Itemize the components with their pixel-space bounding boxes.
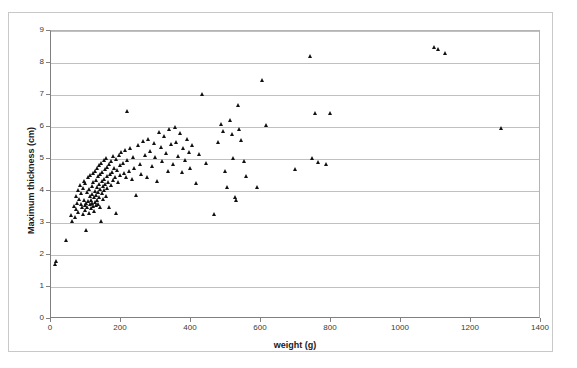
scatter-point xyxy=(108,172,112,176)
scatter-point xyxy=(94,203,98,207)
scatter-point xyxy=(95,198,99,202)
scatter-point xyxy=(121,161,125,165)
scatter-point xyxy=(81,186,85,190)
scatter-point xyxy=(432,45,436,49)
scatter-point xyxy=(197,152,201,156)
scatter-point xyxy=(87,211,91,215)
y-tick-label: 0 xyxy=(4,314,44,322)
scatter-point xyxy=(239,138,243,142)
scatter-point xyxy=(228,118,232,122)
x-tick-label: 1200 xyxy=(450,324,490,332)
scatter-point xyxy=(97,182,101,186)
scatter-point xyxy=(117,153,121,157)
scatter-point xyxy=(145,175,149,179)
x-tick-label: 200 xyxy=(100,324,140,332)
scatter-point xyxy=(86,175,90,179)
scatter-point xyxy=(111,178,115,182)
scatter-point xyxy=(105,174,109,178)
scatter-point xyxy=(74,207,78,211)
scatter-point xyxy=(118,163,122,167)
y-tick-label: 5 xyxy=(4,154,44,162)
scatter-point xyxy=(162,134,166,138)
scatter-point xyxy=(80,205,84,209)
y-tick-label: 4 xyxy=(4,186,44,194)
x-tick-mark xyxy=(540,318,541,322)
y-tick-label: 8 xyxy=(4,58,44,66)
scatter-point xyxy=(112,166,116,170)
scatter-point xyxy=(69,213,73,217)
x-tick-label: 800 xyxy=(310,324,350,332)
x-tick-mark xyxy=(120,318,121,322)
x-tick-label: 0 xyxy=(30,324,70,332)
scatter-point xyxy=(141,139,145,143)
x-tick-mark xyxy=(260,318,261,322)
scatter-point xyxy=(84,201,88,205)
scatter-point xyxy=(123,148,127,152)
x-tick-label: 600 xyxy=(240,324,280,332)
chart-figure: 01234567890200400600800100012001400 Maxi… xyxy=(0,0,577,368)
scatter-point xyxy=(93,200,97,204)
scatter-point xyxy=(113,175,117,179)
scatter-point xyxy=(204,161,208,165)
x-tick-label: 400 xyxy=(170,324,210,332)
scatter-point xyxy=(188,166,192,170)
scatter-point xyxy=(86,199,90,203)
scatter-point xyxy=(166,169,170,173)
scatter-point xyxy=(82,179,86,183)
scatter-point xyxy=(443,51,447,55)
scatter-point xyxy=(92,209,96,213)
scatter-point xyxy=(78,183,82,187)
scatter-point xyxy=(125,109,129,113)
scatter-point xyxy=(105,186,109,190)
scatter-point xyxy=(313,111,317,115)
scatter-point xyxy=(89,198,93,202)
scatter-point xyxy=(105,165,109,169)
scatter-point xyxy=(255,185,259,189)
scatter-point xyxy=(190,143,194,147)
gridline-y xyxy=(51,31,539,32)
scatter-point xyxy=(180,170,184,174)
scatter-point xyxy=(171,162,175,166)
scatter-point xyxy=(136,143,140,147)
scatter-point xyxy=(90,201,94,205)
scatter-point xyxy=(110,170,114,174)
scatter-point xyxy=(98,172,102,176)
y-tick-label: 1 xyxy=(4,282,44,290)
scatter-point xyxy=(106,180,110,184)
scatter-point xyxy=(88,202,92,206)
scatter-point xyxy=(95,185,99,189)
scatter-point xyxy=(77,197,81,201)
scatter-point xyxy=(101,184,105,188)
scatter-point xyxy=(95,166,99,170)
scatter-point xyxy=(53,262,57,266)
scatter-point xyxy=(91,171,95,175)
x-tick-mark xyxy=(330,318,331,322)
scatter-point xyxy=(185,137,189,141)
scatter-point xyxy=(260,78,264,82)
scatter-point xyxy=(104,194,108,198)
scatter-point xyxy=(181,146,185,150)
scatter-point xyxy=(328,111,332,115)
gridline-y xyxy=(51,159,539,160)
gridline-y xyxy=(51,127,539,128)
scatter-point xyxy=(107,205,111,209)
gridline-y xyxy=(51,255,539,256)
scatter-point xyxy=(88,194,92,198)
scatter-point xyxy=(91,204,95,208)
scatter-point xyxy=(159,145,163,149)
scatter-point xyxy=(64,238,68,242)
x-tick-label: 1000 xyxy=(380,324,420,332)
scatter-point xyxy=(150,164,154,168)
scatter-point xyxy=(127,169,131,173)
scatter-point xyxy=(89,206,93,210)
scatter-point xyxy=(130,177,134,181)
scatter-point xyxy=(174,140,178,144)
scatter-point xyxy=(169,142,173,146)
scatter-point xyxy=(90,184,94,188)
scatter-point xyxy=(124,175,128,179)
scatter-point xyxy=(223,169,227,173)
plot-area xyxy=(50,30,540,318)
scatter-point xyxy=(74,194,78,198)
scatter-point xyxy=(194,181,198,185)
scatter-point xyxy=(216,140,220,144)
